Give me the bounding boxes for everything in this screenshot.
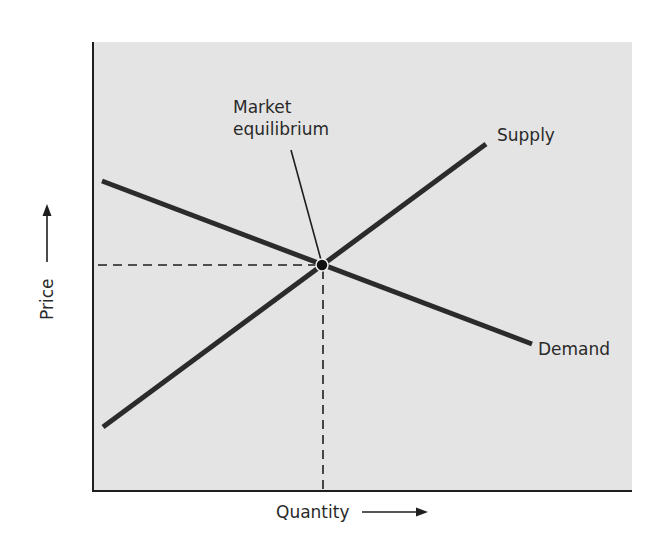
supply-demand-chart: Supply Demand Market equilibrium Quantit… <box>0 0 657 546</box>
demand-label: Demand <box>538 339 610 359</box>
y-axis-label: Price <box>37 279 57 320</box>
equilibrium-label-line2: equilibrium <box>233 119 329 139</box>
x-axis-label: Quantity <box>276 502 349 522</box>
equilibrium-label-line1: Market <box>233 97 292 117</box>
y-axis-arrow-icon <box>43 204 52 262</box>
equilibrium-point <box>316 259 328 271</box>
plot-panel <box>93 42 632 491</box>
supply-label: Supply <box>497 125 555 145</box>
x-axis-arrow-icon <box>362 508 428 517</box>
